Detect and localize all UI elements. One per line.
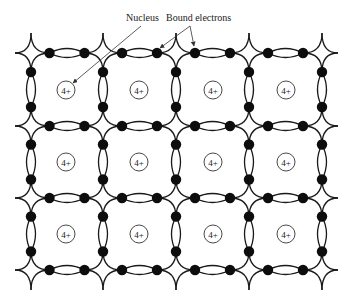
bond-pair [318,145,327,180]
bond-pair [122,122,157,131]
electron-dot [225,193,235,203]
ion-charge-label: 4+ [61,230,71,240]
bond-pair [245,72,254,107]
bond-pair [122,49,157,58]
bond-pair [99,145,108,180]
electron-dot [117,121,127,131]
electron-dot [44,193,54,203]
electron-dot [263,265,273,275]
electron-dot [317,67,327,77]
lattice-connector [322,33,338,53]
bond-pair [245,217,254,252]
electron-dot [298,48,308,58]
electron-dot [26,139,36,149]
electron-dot [317,102,327,112]
bond-pair [318,217,327,252]
ion-charge-label: 4+ [208,230,218,240]
silicon-lattice-diagram: 4+4+4+4+4+4+4+4+4+4+4+4+ Nucleus Bound e… [0,0,355,301]
ion-nucleus: 4+ [57,153,75,171]
ion-nucleus: 4+ [204,81,222,99]
electron-dot [190,265,200,275]
ion-charge-label: 4+ [134,86,144,96]
electron-dot [79,48,89,58]
electron-dot [171,139,181,149]
electron-dot [26,67,36,77]
bond-pair [122,266,157,275]
electron-dot [98,102,108,112]
bond-pair [268,49,303,58]
ion-nucleus: 4+ [130,81,148,99]
electron-dot [44,121,54,131]
electron-dot [152,48,162,58]
electron-dot [44,48,54,58]
bond-pair [27,72,36,107]
ion-charge-label: 4+ [134,158,144,168]
electron-dot [98,139,108,149]
electron-dot [26,211,36,221]
bond-pair [195,122,230,131]
ion-nucleus: 4+ [57,225,75,243]
electron-dot [263,121,273,131]
bound-electron-arrow [190,26,194,46]
bond-pair [172,217,181,252]
electron-dot [171,211,181,221]
electron-dot [244,174,254,184]
electron-dot [244,102,254,112]
electron-dot [244,211,254,221]
electron-dot [225,265,235,275]
bond-pair [245,145,254,180]
electron-dot [244,67,254,77]
bond-pair [27,217,36,252]
bond-pair [27,145,36,180]
electron-dot [26,246,36,256]
ion-charge-label: 4+ [281,86,291,96]
bond-pair [99,72,108,107]
electron-dot [152,121,162,131]
bond-pair [318,72,327,107]
electron-dot [171,246,181,256]
ion-nucleus: 4+ [204,153,222,171]
electron-dot [171,67,181,77]
electron-dot [79,121,89,131]
lattice-connector [322,270,338,290]
electron-dot [244,139,254,149]
bond-pair [195,49,230,58]
electron-dot [190,193,200,203]
ion-nucleus: 4+ [277,153,295,171]
electron-dot [117,193,127,203]
electron-dot [26,102,36,112]
ion-charge-label: 4+ [61,86,71,96]
bond-pair [50,122,85,131]
electron-dot [317,246,327,256]
nucleus-label: Nucleus [126,12,159,23]
annotations: Nucleus Bound electrons [73,12,231,83]
ion-charge-label: 4+ [208,86,218,96]
electron-dot [79,193,89,203]
electron-dot [298,193,308,203]
bond-pair [172,145,181,180]
bond-pair [99,217,108,252]
bound-electron-arrow [160,26,190,48]
electron-dot [26,174,36,184]
ion-nucleus: 4+ [57,81,75,99]
bond-pair [268,266,303,275]
electron-dot [317,174,327,184]
electron-dot [263,48,273,58]
bond-pair [195,266,230,275]
ion-nucleus: 4+ [204,225,222,243]
bond-pair [50,194,85,203]
electron-dot [190,121,200,131]
lattice-connector [15,270,31,290]
bond-pair [50,266,85,275]
ion-charge-label: 4+ [281,158,291,168]
ion-charge-label: 4+ [134,230,144,240]
lattice-connector [15,33,31,53]
electron-dot [171,102,181,112]
electron-dot [79,265,89,275]
electron-dot [98,211,108,221]
electron-dot [190,48,200,58]
electron-dot [263,193,273,203]
bond-pair [172,72,181,107]
ion-charge-label: 4+ [61,158,71,168]
electron-dot [98,174,108,184]
